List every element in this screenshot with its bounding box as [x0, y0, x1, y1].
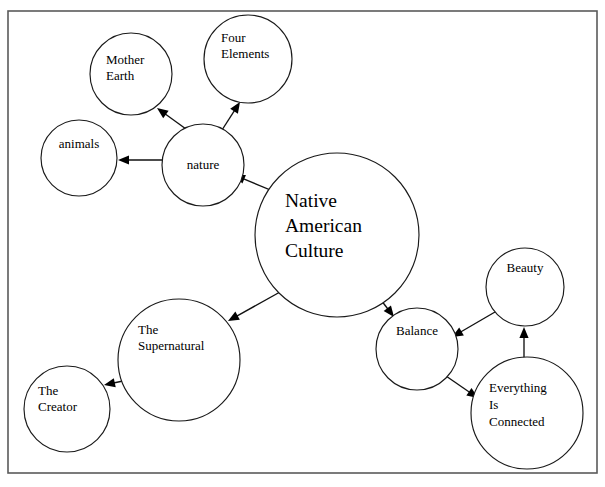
- node-label-animals: animals: [59, 136, 99, 151]
- node-label-line: Earth: [106, 68, 135, 83]
- node-label-line: American: [285, 215, 362, 236]
- arrow-head-icon: [104, 378, 116, 387]
- node-label-line: Creator: [38, 399, 78, 414]
- node-nature[interactable]: nature: [162, 124, 244, 206]
- node-label-line: Culture: [285, 240, 344, 261]
- node-label-line: Everything: [489, 380, 547, 395]
- arrow-head-icon: [230, 102, 240, 114]
- node-label-line: nature: [187, 157, 220, 172]
- link-line: [235, 292, 280, 317]
- node-mother-earth[interactable]: MotherEarth: [90, 33, 172, 115]
- node-circle-animals[interactable]: [41, 120, 117, 196]
- node-label-line: Is: [489, 397, 498, 412]
- node-label-line: Mother: [106, 52, 145, 67]
- concept-map-canvas: NativeAmericanCulturenatureMotherEarthFo…: [0, 0, 605, 487]
- node-label-line: animals: [59, 136, 99, 151]
- link-nature-to-four-elements: [222, 102, 240, 130]
- node-animals[interactable]: animals: [41, 120, 117, 196]
- node-label-nature: nature: [187, 157, 220, 172]
- node-label-beauty: Beauty: [507, 260, 544, 275]
- link-line: [446, 376, 471, 393]
- link-line: [222, 109, 235, 130]
- node-balance[interactable]: Balance: [376, 308, 458, 390]
- arrow-head-icon: [519, 327, 528, 338]
- link-eic-to-beauty: [519, 327, 528, 358]
- node-circle-everything-is-connected[interactable]: [471, 357, 583, 469]
- node-label-line: Beauty: [507, 260, 544, 275]
- node-label-line: Supernatural: [138, 338, 205, 353]
- link-balance-to-eic: [446, 376, 478, 398]
- node-label-line: Connected: [489, 414, 545, 429]
- node-label-line: Balance: [396, 323, 438, 338]
- node-four-elements[interactable]: FourElements: [204, 15, 292, 103]
- node-label-balance: Balance: [396, 323, 438, 338]
- node-the-creator[interactable]: TheCreator: [24, 366, 110, 452]
- link-nac-to-supernatural: [228, 292, 280, 321]
- node-label-line: The: [138, 322, 158, 337]
- arrow-head-icon: [384, 305, 394, 317]
- arrow-head-icon: [118, 155, 129, 164]
- node-everything-is-connected[interactable]: EverythingIsConnected: [471, 357, 583, 469]
- node-the-supernatural[interactable]: TheSupernatural: [118, 299, 240, 421]
- node-beauty[interactable]: Beauty: [486, 248, 564, 326]
- node-circle-the-supernatural[interactable]: [118, 299, 240, 421]
- node-layer: NativeAmericanCulturenatureMotherEarthFo…: [24, 15, 583, 469]
- node-native-american-culture[interactable]: NativeAmericanCulture: [255, 153, 419, 317]
- link-nature-to-mother-earth: [157, 108, 186, 129]
- concept-map-svg: NativeAmericanCulturenatureMotherEarthFo…: [0, 0, 605, 487]
- link-nature-to-animals: [118, 155, 162, 164]
- node-label-line: The: [38, 383, 58, 398]
- link-line: [164, 113, 186, 129]
- arrow-head-icon: [228, 312, 240, 321]
- link-beauty-to-balance: [452, 312, 495, 337]
- node-circle-balance[interactable]: [376, 308, 458, 390]
- link-line: [459, 312, 495, 333]
- arrow-head-icon: [157, 108, 169, 118]
- node-label-line: Native: [285, 190, 337, 211]
- node-label-line: Elements: [221, 46, 269, 61]
- node-label-line: Four: [221, 30, 246, 45]
